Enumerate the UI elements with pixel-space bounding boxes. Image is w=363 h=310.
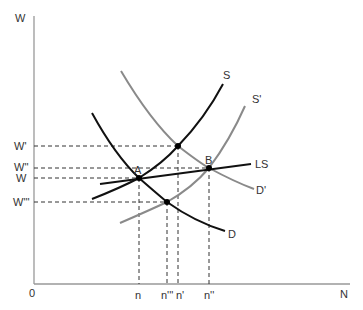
label-w-prime: W' bbox=[14, 140, 26, 152]
label-n-prime: n' bbox=[176, 289, 184, 301]
employment-guides bbox=[139, 146, 209, 284]
label-n: n bbox=[135, 289, 141, 301]
point-sprime-d-intersection bbox=[164, 199, 170, 205]
label-curve-d-prime: D' bbox=[256, 184, 266, 196]
origin-label: 0 bbox=[29, 287, 35, 299]
x-axis-label: N bbox=[340, 288, 348, 300]
point-s-dprime-intersection bbox=[175, 143, 181, 149]
label-curve-s-prime: S' bbox=[252, 93, 261, 105]
label-point-b: B bbox=[205, 154, 212, 166]
label-n-double: n'' bbox=[204, 289, 214, 301]
y-axis-label: W bbox=[15, 12, 26, 24]
label-curve-d: D bbox=[228, 228, 236, 240]
label-curve-s: S bbox=[223, 69, 230, 81]
label-w: W bbox=[16, 172, 27, 184]
curve-ls bbox=[100, 164, 251, 184]
labour-market-diagram: W N 0 W' W'' W W''' n n''' n' n'' A B S … bbox=[0, 0, 363, 310]
label-curve-ls: LS bbox=[255, 158, 268, 170]
label-w-triple: W''' bbox=[13, 196, 30, 208]
label-n-triple: n''' bbox=[161, 289, 173, 301]
label-point-a: A bbox=[134, 164, 142, 176]
